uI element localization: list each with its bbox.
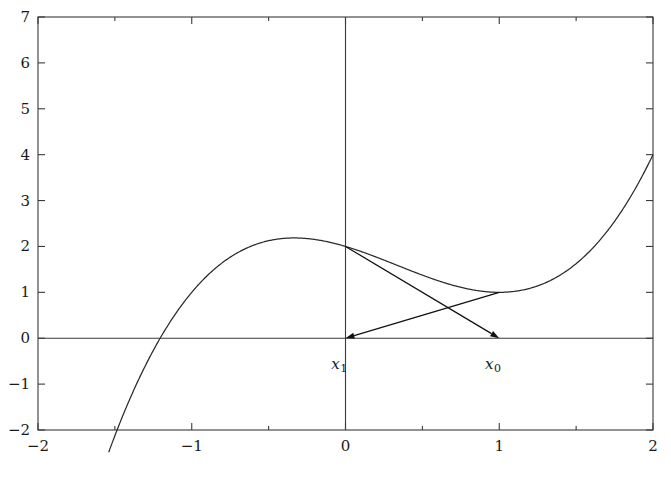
x1-label: x1 (331, 357, 347, 374)
x-tick-label: 1 (494, 439, 504, 454)
x0-label: x0 (485, 357, 501, 374)
y-tick-label: 0 (20, 331, 30, 346)
x0-label-subscript: 0 (494, 362, 502, 375)
x-tick-label: −2 (27, 439, 49, 454)
y-tick-label: 1 (20, 285, 30, 300)
y-tick-label: 3 (20, 193, 30, 208)
x-tick-label: 0 (341, 439, 351, 454)
y-tick-label: 7 (20, 10, 30, 25)
y-tick-label: 5 (20, 101, 30, 116)
newton-method-figure: −2−101234567 −2−1012 x1x0 (0, 0, 671, 478)
x-tick-label: −1 (181, 439, 203, 454)
x-tick-label: 2 (648, 439, 658, 454)
tangent-arrows (346, 246, 500, 338)
y-tick-label: −1 (8, 377, 30, 392)
y-tick-label: 6 (20, 55, 30, 70)
y-tick-label: 2 (20, 239, 30, 254)
y-tick-label: −2 (8, 423, 30, 438)
y-tick-label: 4 (20, 147, 30, 162)
x1-label-subscript: 1 (340, 362, 348, 375)
function-curve (109, 155, 653, 453)
plot-canvas (0, 0, 671, 478)
